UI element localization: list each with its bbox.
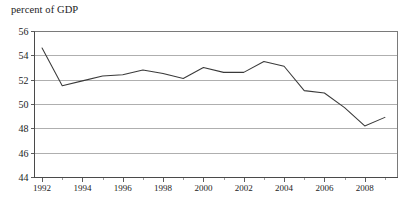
x-axis-tick-labels: 199219941996199820002002200420062008 — [33, 183, 374, 193]
y-tick-label-44: 44 — [19, 172, 29, 183]
x-tick-label-1994: 1994 — [73, 183, 92, 193]
x-tick-label-2006: 2006 — [315, 183, 334, 193]
x-tick-label-2008: 2008 — [356, 183, 375, 193]
y-tick-label-52: 52 — [19, 75, 29, 86]
x-tick-label-2000: 2000 — [194, 183, 213, 193]
x-axis-ticks — [43, 178, 386, 183]
x-tick-label-2004: 2004 — [275, 183, 294, 193]
data-series-group — [42, 48, 385, 126]
data-line-series-0 — [42, 48, 385, 126]
y-axis-ticks — [31, 32, 35, 178]
y-tick-label-50: 50 — [19, 99, 29, 110]
y-tick-label-56: 56 — [19, 26, 29, 37]
x-tick-label-2002: 2002 — [235, 183, 253, 193]
plot-area: 44464850525456 1992199419961998200020022… — [0, 0, 410, 203]
y-tick-label-54: 54 — [19, 50, 29, 61]
y-tick-label-48: 48 — [19, 123, 29, 134]
chart-screenshot: percent of GDP 44464850525456 1992199419… — [0, 0, 410, 203]
x-tick-label-1998: 1998 — [154, 183, 173, 193]
line-chart-svg: 44464850525456 1992199419961998200020022… — [0, 0, 410, 203]
x-tick-label-1996: 1996 — [114, 183, 133, 193]
x-tick-label-1992: 1992 — [33, 183, 51, 193]
y-axis-tick-labels: 44464850525456 — [19, 26, 29, 183]
y-tick-label-46: 46 — [19, 148, 29, 159]
